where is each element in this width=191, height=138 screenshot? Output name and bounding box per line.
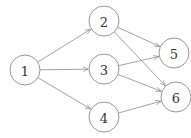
node-label: 2 [100, 15, 108, 30]
node-label: 5 [170, 47, 178, 62]
edge-3-to-6 [118, 74, 162, 91]
node-label: 6 [172, 91, 180, 106]
directed-graph: 123456 [0, 0, 191, 138]
edge-4-to-6 [118, 101, 161, 113]
node-2: 2 [89, 6, 119, 36]
edge-2-to-6 [114, 32, 165, 86]
edge-2-to-5 [118, 27, 160, 46]
node-5: 5 [159, 38, 189, 68]
edge-1-to-4 [38, 78, 91, 109]
nodes-group: 123456 [10, 6, 191, 132]
node-label: 3 [100, 63, 108, 78]
node-4: 4 [89, 102, 119, 132]
node-3: 3 [89, 54, 119, 84]
edge-1-to-3 [40, 69, 89, 70]
node-label: 4 [100, 111, 108, 126]
node-label: 1 [21, 64, 29, 79]
node-1: 1 [10, 55, 40, 85]
edge-1-to-2 [38, 29, 91, 62]
node-6: 6 [161, 82, 191, 112]
